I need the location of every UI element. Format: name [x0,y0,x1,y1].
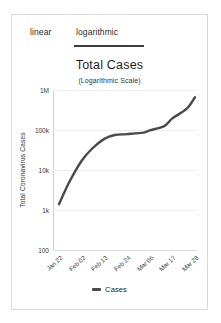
x-tick-label: Mar 28 [180,254,199,272]
active-tab-indicator [74,45,144,47]
y-axis-title: Total Coronavirus Cases [19,132,26,207]
legend-label-cases: Cases [105,285,127,294]
screenshot-root: linear logarithmic Total Cases (Logarith… [0,0,221,323]
chart-subtitle: (Logarithmic Scale) [12,77,207,84]
y-tick-label: 100 [38,247,49,254]
y-tick-label: 100k [35,127,49,134]
x-tick-label: Jan 22 [45,254,64,272]
x-tick-label: Mar 17 [158,254,177,272]
y-tick-label: 10k [39,167,49,174]
series-cases-line [53,90,197,250]
chart-legend: Cases [12,285,207,294]
tab-linear[interactable]: linear [30,27,51,42]
chart-card: linear logarithmic Total Cases (Logarith… [11,14,208,310]
y-tick-label: 1k [42,207,49,214]
x-tick-label: Mar 06 [135,254,154,272]
gridline [53,250,197,251]
plot-area: Total Coronavirus Cases 1M100k10k1k100 J… [53,90,197,250]
x-tick-label: Feb 02 [67,254,86,272]
y-tick-label: 1M [40,87,49,94]
scale-tab-bar: linear logarithmic [12,27,207,53]
chart-title: Total Cases [12,58,207,72]
x-tick-label: Feb 13 [90,254,109,272]
legend-line-marker [92,288,101,291]
x-tick-label: Feb 24 [112,254,131,272]
tab-logarithmic[interactable]: logarithmic [76,27,118,42]
